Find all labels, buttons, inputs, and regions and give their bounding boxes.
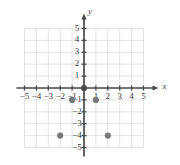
data-point xyxy=(57,133,63,139)
y-tick-label: −5 xyxy=(72,142,82,152)
y-tick-label: 5 xyxy=(75,23,80,33)
x-tick-label: 3 xyxy=(117,91,122,101)
data-point xyxy=(105,133,111,139)
x-axis-arrowhead xyxy=(153,85,159,90)
y-tick-label: 4 xyxy=(75,34,80,44)
y-axis-label: y xyxy=(87,6,92,16)
coordinate-plane-chart: −5−4−3−2−11234554321−1−2−3−4−5xy xyxy=(0,0,180,165)
y-tick-label: 3 xyxy=(75,46,80,56)
x-tick-label: −3 xyxy=(44,91,54,101)
x-tick-label: 5 xyxy=(141,91,146,101)
data-point-origin xyxy=(81,85,87,91)
x-tick-label: 2 xyxy=(106,91,111,101)
scatter-plot-svg: −5−4−3−2−11234554321−1−2−3−4−5xy xyxy=(0,0,180,165)
data-point xyxy=(93,97,99,103)
data-point xyxy=(69,97,75,103)
y-tick-label: 1 xyxy=(75,70,80,80)
y-tick-label: −4 xyxy=(72,130,82,140)
y-tick-label: 2 xyxy=(75,58,80,68)
y-tick-label: −2 xyxy=(72,106,82,116)
y-axis-arrowhead xyxy=(81,14,86,20)
x-tick-label: −4 xyxy=(32,91,42,101)
x-tick-label: 4 xyxy=(129,91,134,101)
y-tick-label: −3 xyxy=(72,118,82,128)
x-axis-label: x xyxy=(162,81,167,91)
x-tick-label: −5 xyxy=(20,91,30,101)
x-tick-label: −2 xyxy=(55,91,65,101)
axes xyxy=(17,14,159,157)
